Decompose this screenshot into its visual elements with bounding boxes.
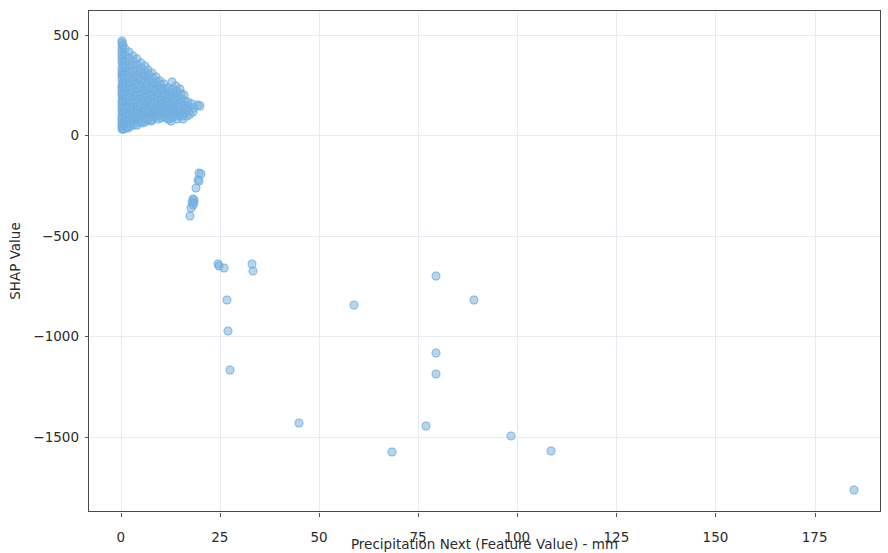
y-gridline	[89, 236, 880, 237]
scatter-point	[295, 418, 304, 427]
y-tick-label: 0	[70, 127, 79, 143]
scatter-point	[422, 421, 431, 430]
scatter-point	[349, 301, 358, 310]
scatter-point	[196, 102, 205, 111]
y-tick	[85, 437, 89, 438]
y-tick	[85, 135, 89, 136]
y-tick-label: 500	[53, 27, 79, 43]
x-tick	[517, 513, 518, 517]
y-gridline	[89, 437, 880, 438]
y-tick-label: −1000	[33, 328, 79, 344]
y-gridline	[89, 135, 880, 136]
scatter-point	[248, 267, 257, 276]
y-tick	[85, 336, 89, 337]
x-tick	[815, 513, 816, 517]
x-axis-title: Precipitation Next (Feature Value) - mm	[88, 536, 881, 552]
scatter-point	[224, 327, 233, 336]
x-tick	[319, 513, 320, 517]
y-tick	[85, 35, 89, 36]
y-axis-title: SHAP Value	[6, 10, 24, 512]
scatter-point	[222, 295, 231, 304]
plot-area: 02550751001251501755000−500−1000−1500	[88, 10, 881, 512]
scatter-point	[432, 370, 441, 379]
scatter-point	[546, 447, 555, 456]
scatter-point	[226, 366, 235, 375]
y-tick-label: −500	[42, 228, 79, 244]
scatter-point	[186, 211, 195, 220]
y-gridline	[89, 336, 880, 337]
scatter-point	[388, 448, 397, 457]
scatter-point	[507, 432, 516, 441]
scatter-point	[431, 272, 440, 281]
x-tick	[418, 513, 419, 517]
x-tick	[220, 513, 221, 517]
scatter-point	[190, 199, 199, 208]
scatter-point	[432, 349, 441, 358]
scatter-point	[192, 184, 201, 193]
scatter-point	[850, 485, 859, 494]
shap-scatter-figure: 02550751001251501755000−500−1000−1500 SH…	[0, 0, 888, 553]
x-tick	[121, 513, 122, 517]
x-tick	[715, 513, 716, 517]
scatter-point	[469, 296, 478, 305]
y-tick-label: −1500	[33, 429, 79, 445]
y-gridline	[89, 35, 880, 36]
y-axis-title-text: SHAP Value	[7, 222, 23, 299]
y-tick	[85, 236, 89, 237]
x-tick	[616, 513, 617, 517]
scatter-point	[219, 264, 228, 273]
